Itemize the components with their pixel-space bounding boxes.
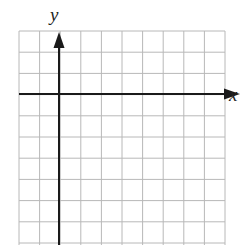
y-axis-arrow-icon [54, 32, 65, 48]
x-axis [19, 89, 240, 100]
grid [19, 31, 225, 245]
y-axis-label: y [48, 4, 59, 25]
x-axis-label: x [228, 84, 238, 105]
y-axis [54, 32, 65, 245]
coordinate-plane: y x [0, 0, 244, 245]
